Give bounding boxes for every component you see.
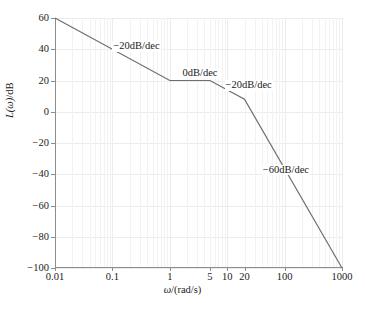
y-axis-title-text: L(ω)/dB (4, 83, 15, 118)
tick-label-y-40: 40 (39, 44, 50, 55)
tick-label-x-1: 1 (167, 272, 172, 283)
tick-label-y--40: −40 (33, 169, 49, 180)
tick-label-x-1000: 1000 (332, 272, 353, 283)
bode-magnitude-plot: L(ω)/dB ω/(rad/s) 6040200−20−40−60−80−10… (0, 0, 365, 315)
tick-label-y--20: −20 (33, 138, 49, 149)
tick-label-x-100: 100 (277, 272, 293, 283)
tick-label-y-0: 0 (44, 107, 49, 118)
tick-label-x-0.1: 0.1 (106, 272, 119, 283)
gridline-y--100 (55, 268, 342, 269)
tick-label-y-60: 60 (39, 13, 50, 24)
plot-area: 6040200−20−40−60−80−100 0.010.1151020100… (55, 18, 342, 268)
slope-label-segment-4: −60dB/dec (262, 165, 310, 176)
x-axis-title: ω/(rad/s) (0, 284, 365, 295)
tick-label-x-20: 20 (239, 272, 250, 283)
tick-label-x-5: 5 (207, 272, 212, 283)
slope-label-segment-3: −20dB/dec (225, 80, 273, 91)
slope-label-segment-2: 0dB/dec (182, 68, 219, 79)
slope-label-segment-1: −20dB/dec (112, 41, 160, 52)
gridline-x-1000 (342, 18, 343, 268)
tick-label-y--60: −60 (33, 200, 49, 211)
tick-label-x-10: 10 (222, 272, 233, 283)
tick-label-x-0.01: 0.01 (46, 272, 64, 283)
tick-label-y--80: −80 (33, 232, 49, 243)
y-axis-title: L(ω)/dB (4, 83, 15, 118)
tick-label-y-20: 20 (39, 75, 50, 86)
magnitude-curve (55, 18, 342, 268)
